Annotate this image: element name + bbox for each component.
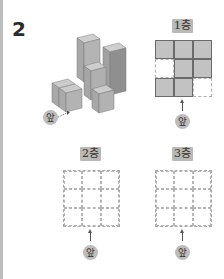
floor-1-cell (155, 59, 174, 78)
floor-1-grid (155, 40, 212, 97)
floor-2-cell[interactable] (82, 208, 100, 226)
floor-3-front-label: 앞 (175, 245, 190, 260)
floor-3-cell[interactable] (156, 208, 174, 226)
floor-1-front-arrow-icon (182, 102, 183, 111)
floor-3-cell[interactable] (156, 189, 174, 207)
floor-2-front-arrow-icon (90, 232, 91, 241)
floor-2-cell[interactable] (101, 208, 119, 226)
floor-2-label: 2층 (80, 147, 101, 161)
floor-3-cell[interactable] (193, 171, 211, 189)
floor-1-cell (174, 78, 193, 97)
floor-1-cell (193, 40, 212, 59)
floor-1-cell (155, 40, 174, 59)
floor-3-cell[interactable] (156, 171, 174, 189)
floor-3-cell[interactable] (193, 208, 211, 226)
floor-2-front-label: 앞 (83, 245, 98, 260)
floor-3-cell[interactable] (174, 189, 192, 207)
floor-3-cell[interactable] (174, 208, 192, 226)
floor-2-grid[interactable] (63, 170, 120, 227)
floor-1-cell (155, 78, 174, 97)
floor-1-cell (193, 78, 212, 97)
floor-2-cell[interactable] (101, 171, 119, 189)
floor-3-label: 3층 (172, 147, 193, 161)
page-left-border (0, 0, 3, 279)
floor-1-cell (174, 59, 193, 78)
problem-number: 2 (12, 17, 26, 41)
isometric-cube-stack (40, 25, 140, 125)
floor-1-front-label: 앞 (175, 114, 190, 129)
floor-2-cell[interactable] (64, 189, 82, 207)
floor-2-cell[interactable] (64, 208, 82, 226)
floor-3-cell[interactable] (174, 171, 192, 189)
floor-2-cell[interactable] (101, 189, 119, 207)
floor-3-grid[interactable] (155, 170, 212, 227)
floor-3-front-arrow-icon (182, 232, 183, 241)
floor-1-cell (193, 59, 212, 78)
floor-2-cell[interactable] (64, 171, 82, 189)
floor-3-cell[interactable] (193, 189, 211, 207)
floor-1-cell (174, 40, 193, 59)
floor-2-cell[interactable] (82, 189, 100, 207)
floor-1-label: 1층 (172, 19, 193, 33)
front-label-iso: 앞 (43, 110, 58, 125)
floor-2-cell[interactable] (82, 171, 100, 189)
